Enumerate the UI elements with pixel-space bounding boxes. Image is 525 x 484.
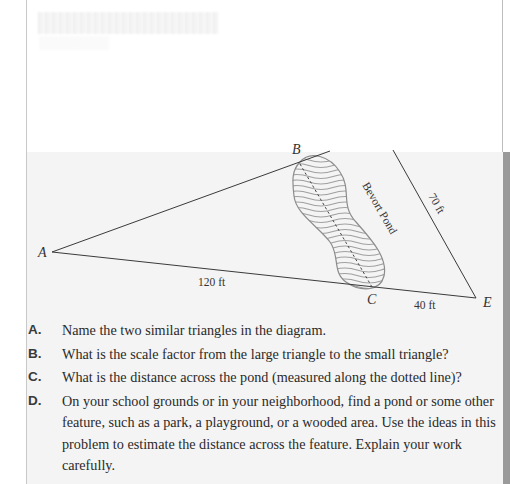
measure-CE: 40 ft — [414, 299, 436, 311]
line-AE — [52, 252, 476, 298]
question-text: What is the distance across the pond (me… — [62, 367, 498, 387]
question-text: Name the two similar triangles in the di… — [62, 320, 498, 340]
question-d: D. On your school grounds or in your nei… — [28, 391, 498, 477]
measure-DE: 70 ft — [426, 191, 447, 216]
line-AB — [52, 151, 330, 252]
dotted-line-BC — [300, 164, 372, 287]
similar-triangles-diagram: A B C E 120 ft 40 ft 70 ft Bevort Pond — [0, 0, 525, 320]
pond-label: Bevort Pond — [360, 180, 399, 236]
question-label: B. — [28, 344, 42, 364]
question-text: On your school grounds or in your neighb… — [62, 391, 498, 477]
question-text: What is the scale factor from the large … — [62, 344, 498, 364]
question-label: C. — [28, 367, 42, 387]
line-DE — [393, 150, 476, 298]
question-label: A. — [28, 320, 42, 340]
vertex-label-C: C — [367, 292, 377, 307]
question-b: B. What is the scale factor from the lar… — [28, 344, 498, 364]
question-list: A. Name the two similar triangles in the… — [28, 320, 498, 480]
question-label: D. — [28, 391, 42, 411]
measure-AC: 120 ft — [198, 276, 226, 288]
question-a: A. Name the two similar triangles in the… — [28, 320, 498, 340]
vertex-label-B: B — [292, 142, 301, 157]
question-c: C. What is the distance across the pond … — [28, 367, 498, 387]
vertex-label-E: E — [482, 295, 492, 310]
vertex-label-A: A — [37, 245, 47, 260]
